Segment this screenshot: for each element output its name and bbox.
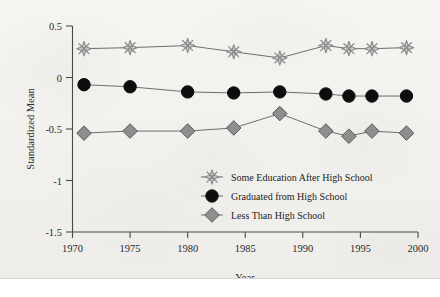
legend-label: Graduated from High School [231,191,348,202]
line-chart: 0.5 0 -0.5 -1 -1.5 1970 1975 1980 1985 1… [0,0,440,297]
y-tick-label: -1.5 [45,227,62,238]
data-point-diamond [123,124,138,139]
x-tick-label: 1985 [235,243,256,254]
y-tick-label: -0.5 [45,124,62,135]
x-tick-label: 1975 [120,243,141,254]
data-point-circle [228,87,240,99]
data-point-diamond [226,121,241,136]
series-1 [78,79,413,103]
chart-legend: Some Education After High SchoolGraduate… [201,170,373,223]
data-point-diamond [205,208,220,223]
data-point-circle [124,81,136,93]
series-0 [77,38,414,65]
x-tick-label: 1980 [177,243,198,254]
y-tick-label: 0 [57,73,62,84]
data-point-circle [343,90,355,102]
x-axis-ticks: 1970 1975 1980 1985 1990 1995 2000 [62,232,429,254]
data-point-circle [366,90,378,102]
data-point-diamond [77,126,92,141]
x-tick-label: 1990 [292,243,313,254]
data-point-diamond [365,124,380,139]
x-tick-label: 1995 [350,243,371,254]
legend-item: Some Education After High School [201,170,373,184]
plot-area [77,38,414,143]
y-axis-title: Standardized Mean [25,88,36,170]
data-point-starburst [399,40,413,54]
data-point-circle [181,86,193,98]
legend-item: Graduated from High School [201,190,348,202]
data-point-starburst [273,51,287,65]
figure-page: 0.5 0 -0.5 -1 -1.5 1970 1975 1980 1985 1… [0,0,440,297]
data-point-circle [274,86,286,98]
data-point-starburst [205,170,219,184]
data-point-circle [206,190,218,202]
data-point-starburst [123,40,137,54]
data-point-diamond [342,129,357,144]
y-tick-label: 0.5 [49,21,62,32]
data-point-diamond [180,124,195,139]
x-tick-label: 1970 [62,243,83,254]
data-point-starburst [227,45,241,59]
y-tick-label: -1 [53,176,62,187]
y-axis-ticks: 0.5 0 -0.5 -1 -1.5 [45,21,72,238]
series-2 [77,106,414,143]
data-point-circle [78,79,90,91]
data-point-starburst [319,38,333,52]
data-point-starburst [342,41,356,55]
data-point-starburst [180,38,194,52]
x-tick-label: 2000 [408,243,429,254]
data-point-diamond [399,126,414,141]
data-point-starburst [365,41,379,55]
data-point-diamond [319,124,334,139]
data-point-diamond [273,106,288,121]
legend-label: Some Education After High School [231,172,373,183]
page-bottom-edge [0,278,440,297]
data-point-starburst [77,41,91,55]
legend-item: Less Than High School [201,208,325,223]
data-point-circle [400,90,412,102]
data-point-circle [320,88,332,100]
legend-label: Less Than High School [231,210,325,221]
